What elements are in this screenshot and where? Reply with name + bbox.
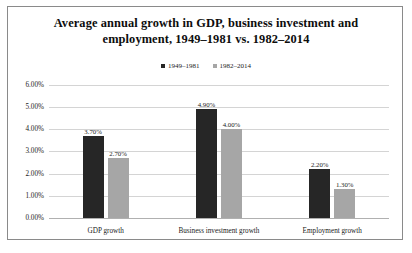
x-axis-category-label: Employment growth [303,227,362,235]
bar-value-label: 3.70% [84,128,102,135]
y-axis-tick-label: 3.00% [25,147,44,155]
bar-group-business-investment-growth: 4.90% 4.00% Business investment growth [162,85,275,218]
bar-group-gdp-growth: 3.70% 2.70% GDP growth [49,85,162,218]
bar-wrap[interactable]: 1.30% [334,85,355,218]
bar-wrap[interactable]: 2.20% [309,85,330,218]
bar-value-label: 1.30% [336,181,354,188]
chart-frame: Average annual growth in GDP, business i… [7,6,403,240]
x-axis-category-label: GDP growth [88,227,124,235]
chart-title-line-1: Average annual growth in GDP, business i… [30,16,382,32]
legend-label: 1949–1981 [168,62,200,70]
bar-1982-2014[interactable] [108,158,129,218]
y-axis-tick-label: 2.00% [25,170,44,178]
legend-label: 1982–2014 [220,62,252,70]
chart-title: Average annual growth in GDP, business i… [30,16,382,47]
x-axis-category-label: Business investment growth [178,227,259,235]
legend-swatch-icon [161,64,165,68]
bar-wrap[interactable]: 4.00% [221,85,242,218]
y-axis-tick-label: 0.00% [25,214,44,222]
bar-value-label: 4.90% [198,101,216,108]
bar-1949-1981[interactable] [196,109,217,218]
chart-title-line-2: employment, 1949–1981 vs. 1982–2014 [30,32,382,48]
bar-1949-1981[interactable] [83,136,104,218]
bar-value-label: 2.70% [109,150,127,157]
bar-1949-1981[interactable] [309,169,330,218]
bar-1982-2014[interactable] [334,189,355,218]
chart-legend: 1949–1981 1982–2014 [8,62,404,70]
bar-1982-2014[interactable] [221,129,242,218]
plot-area: 6.00% 5.00% 4.00% 3.00% 2.00% 1.00% 0.00… [49,85,389,218]
y-axis-tick-label: 1.00% [25,192,44,200]
y-axis-tick-label: 6.00% [25,81,44,89]
bar-group-employment-growth: 2.20% 1.30% Employment growth [276,85,389,218]
bar-value-label: 4.00% [223,121,241,128]
y-axis-tick-label: 5.00% [25,103,44,111]
legend-swatch-icon [213,64,217,68]
legend-item-1949-1981[interactable]: 1949–1981 [161,62,200,70]
y-axis-tick-label: 4.00% [25,125,44,133]
x-axis-baseline: 0.00% [49,218,389,219]
bar-wrap[interactable]: 4.90% [196,85,217,218]
bar-wrap[interactable]: 2.70% [108,85,129,218]
bar-wrap[interactable]: 3.70% [83,85,104,218]
legend-item-1982-2014[interactable]: 1982–2014 [213,62,252,70]
bar-value-label: 2.20% [311,161,329,168]
